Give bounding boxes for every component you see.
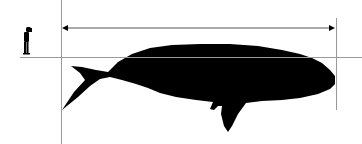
arrowhead-left-icon bbox=[62, 25, 68, 31]
length-arrow bbox=[62, 25, 335, 31]
arrowhead-right-icon bbox=[329, 25, 335, 31]
human-silhouette-icon bbox=[23, 27, 32, 55]
size-comparison-diagram bbox=[0, 0, 362, 144]
diagram-canvas bbox=[0, 0, 362, 144]
